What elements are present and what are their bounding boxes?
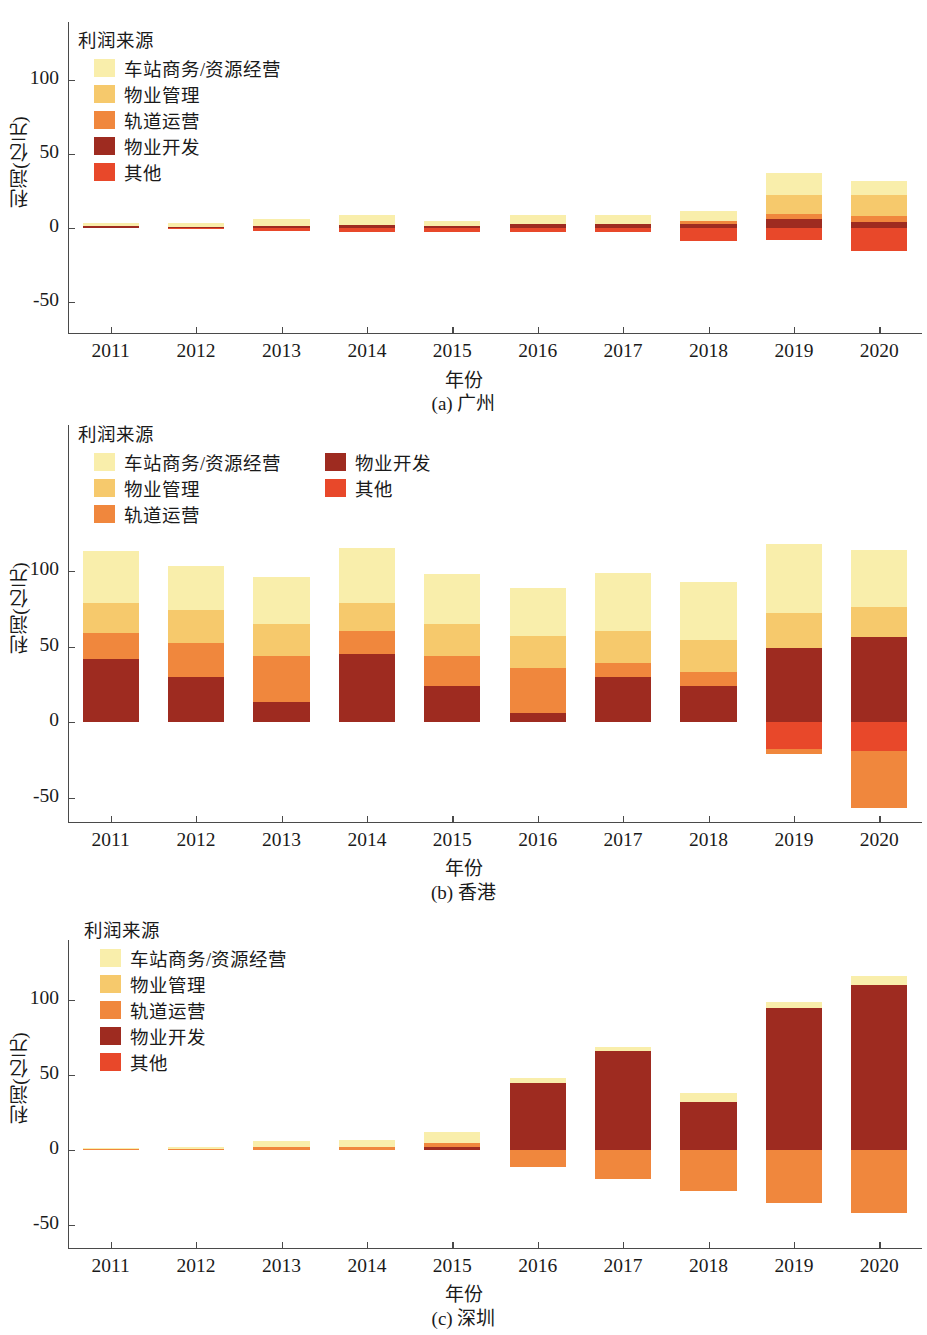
legend-item-label: 轨道运营 [124, 107, 200, 133]
bar-segment [339, 603, 395, 632]
y-axis-title: 利润(亿元) [6, 116, 33, 208]
bar-segment [253, 1141, 309, 1147]
bar-segment [766, 195, 822, 214]
x-axis-tick-label: 2012 [151, 829, 241, 851]
x-axis-tick [452, 1242, 453, 1249]
y-axis-line [68, 940, 69, 1248]
y-axis-tick-label: -50 [33, 785, 59, 807]
legend-item[interactable]: 物业管理 [94, 81, 281, 107]
bar-segment [595, 663, 651, 677]
x-axis-tick-label: 2019 [749, 1255, 839, 1277]
legend-title: 利润来源 [78, 420, 431, 446]
legend-item[interactable]: 轨道运营 [94, 107, 281, 133]
x-axis-tick-label: 2015 [407, 340, 497, 362]
y-axis-tick [68, 228, 75, 229]
bar-segment [168, 643, 224, 676]
x-axis-tick-label: 2013 [237, 829, 327, 851]
bar-segment [83, 1148, 139, 1149]
legend-item[interactable]: 轨道运营 [94, 501, 281, 527]
legend-item[interactable]: 其他 [100, 1049, 287, 1075]
legend-item[interactable]: 物业管理 [94, 475, 281, 501]
legend-item[interactable]: 物业开发 [325, 449, 431, 475]
y-axis-tick [68, 1075, 75, 1076]
bar-segment [424, 574, 480, 624]
x-axis-tick-label: 2019 [749, 829, 839, 851]
x-axis-tick-label: 2018 [664, 340, 754, 362]
bar-segment [766, 173, 822, 194]
bar-segment [595, 1047, 651, 1052]
x-axis-tick-label: 2016 [493, 340, 583, 362]
bar-segment [595, 1150, 651, 1179]
x-axis-tick [623, 327, 624, 334]
y-axis-tick-label: 100 [30, 67, 59, 89]
x-axis-tick [709, 327, 710, 334]
x-axis-tick [367, 816, 368, 823]
bar-segment [168, 610, 224, 643]
bar-segment [851, 550, 907, 607]
y-axis-tick-label: 0 [49, 709, 59, 731]
y-axis-tick-label: 50 [40, 634, 60, 656]
bar-segment [680, 1150, 736, 1191]
legend-item[interactable]: 其他 [325, 475, 431, 501]
legend-shenzhen: 利润来源车站商务/资源经营物业管理轨道运营物业开发其他 [84, 916, 287, 1075]
chart-panel-hongkong: 100500-50利润(亿元)2011201220132014201520162… [0, 410, 927, 930]
bar-segment [83, 633, 139, 659]
y-axis-tick-label: 0 [49, 215, 59, 237]
legend-item-label: 车站商务/资源经营 [124, 55, 281, 81]
bar-segment [851, 216, 907, 222]
y-axis-tick-label: 100 [30, 558, 59, 580]
bar-segment [680, 582, 736, 641]
bar-segment [680, 640, 736, 672]
bar-segment [83, 226, 139, 228]
x-axis-tick-label: 2015 [407, 1255, 497, 1277]
legend-item[interactable]: 车站商务/资源经营 [94, 449, 281, 475]
bar-segment [424, 221, 480, 225]
legend-swatch-icon [94, 479, 115, 497]
bar-segment [851, 1150, 907, 1213]
bar-segment [766, 214, 822, 219]
bar-segment [424, 1147, 480, 1150]
x-axis-tick-label: 2012 [151, 1255, 241, 1277]
legend-item[interactable]: 轨道运营 [100, 997, 287, 1023]
bar-segment [510, 1150, 566, 1167]
legend-item[interactable]: 其他 [94, 159, 281, 185]
y-axis-line [68, 425, 69, 822]
legend-item[interactable]: 物业开发 [100, 1023, 287, 1049]
legend-entries: 车站商务/资源经营物业管理轨道运营物业开发其他 [78, 55, 281, 185]
legend-hongkong: 利润来源车站商务/资源经营物业管理轨道运营物业开发其他 [78, 420, 431, 527]
bar-segment [851, 181, 907, 196]
x-axis-tick [538, 327, 539, 334]
x-axis-tick [538, 1242, 539, 1249]
bar-segment [766, 1150, 822, 1203]
bar-segment [253, 624, 309, 656]
bar-segment [595, 215, 651, 224]
legend-item[interactable]: 物业管理 [100, 971, 287, 997]
figure-page: 100500-50利润(亿元)2011201220132014201520162… [0, 0, 927, 1335]
x-axis-tick [879, 816, 880, 823]
bar-segment [766, 722, 822, 749]
x-axis-title: 年份 [0, 853, 927, 880]
legend-swatch-icon [325, 453, 346, 471]
bar-segment [83, 223, 139, 226]
y-axis-tick [68, 798, 75, 799]
bar-segment [510, 636, 566, 668]
x-axis-tick [623, 1242, 624, 1249]
bar-segment [851, 722, 907, 751]
y-axis-tick [68, 1150, 75, 1151]
y-axis-tick [68, 647, 75, 648]
legend-swatch-icon [100, 949, 121, 967]
legend-item[interactable]: 车站商务/资源经营 [100, 945, 287, 971]
chart-panel-shenzhen: 100500-50利润(亿元)2011201220132014201520162… [0, 930, 927, 1335]
bar-segment [510, 215, 566, 224]
x-axis-tick-label: 2016 [493, 829, 583, 851]
legend-swatch-icon [94, 453, 115, 471]
legend-swatch-icon [94, 137, 115, 155]
y-axis-line [68, 22, 69, 333]
bar-segment [83, 659, 139, 722]
bar-segment [253, 577, 309, 624]
x-axis-tick-label: 2014 [322, 340, 412, 362]
x-axis-title: 年份 [0, 1279, 927, 1306]
legend-item[interactable]: 车站商务/资源经营 [94, 55, 281, 81]
legend-item-label: 物业管理 [130, 971, 206, 997]
legend-item[interactable]: 物业开发 [94, 133, 281, 159]
